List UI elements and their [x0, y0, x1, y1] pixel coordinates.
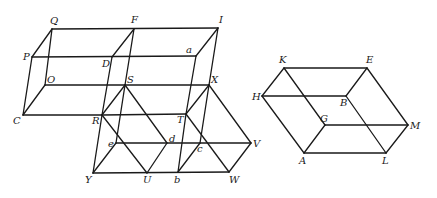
left-vertex-label: e [108, 138, 114, 149]
left-vertex-label: U [143, 174, 152, 185]
left-vertex-label: F [130, 14, 139, 25]
right-edge-E-M [367, 68, 408, 125]
right-edge-H-A [262, 96, 304, 153]
left-vertex-label: T [177, 114, 185, 125]
left-edge-d-U [147, 143, 167, 173]
left-vertex-label: Q [50, 15, 58, 26]
right-vertex-label: L [381, 155, 389, 166]
left-edge-P-C [23, 57, 32, 115]
right-vertex-label: B [339, 97, 347, 108]
left-vertex-label: a [186, 44, 192, 55]
left-edge-P-a [32, 56, 196, 57]
left-vertex-label: P [22, 51, 30, 62]
right-vertex-label: E [365, 54, 374, 65]
left-vertex-label: c [197, 143, 203, 154]
left-edge-X-V [209, 85, 251, 143]
right-figure-labels: KEHBGMAL [251, 54, 421, 166]
left-vertex-label: W [229, 174, 240, 185]
left-edge-V-W [229, 143, 251, 172]
left-vertex-label: D [101, 58, 110, 69]
right-vertex-label: H [251, 91, 261, 102]
right-vertex-label: G [320, 113, 328, 124]
left-vertex-label: S [127, 74, 134, 85]
geometry-diagram: QFIPDaOSXCRTedcVYUbW KEHBGMAL [0, 0, 437, 198]
right-vertex-label: K [278, 54, 287, 65]
right-edge-G-A [304, 125, 325, 153]
left-vertex-label: d [169, 133, 175, 144]
left-vertex-label: O [47, 74, 55, 85]
right-edge-K-H [262, 68, 284, 96]
left-edge-Y-W [93, 172, 229, 173]
left-vertex-label: X [210, 74, 219, 85]
left-vertex-label: V [253, 138, 262, 149]
right-edge-M-L [386, 125, 408, 153]
right-figure-edges [262, 68, 408, 153]
left-edge-R-T [102, 114, 186, 115]
right-vertex-label: A [298, 155, 306, 166]
left-figure-edges [23, 28, 251, 173]
right-edge-E-B [346, 68, 367, 96]
left-vertex-label: R [91, 115, 100, 126]
left-vertex-label: C [13, 115, 21, 126]
left-vertex-label: b [174, 174, 180, 185]
left-vertex-label: I [218, 14, 224, 25]
left-vertex-label: Y [85, 174, 93, 185]
right-vertex-label: M [409, 120, 421, 131]
left-edge-Q-I [52, 28, 218, 29]
